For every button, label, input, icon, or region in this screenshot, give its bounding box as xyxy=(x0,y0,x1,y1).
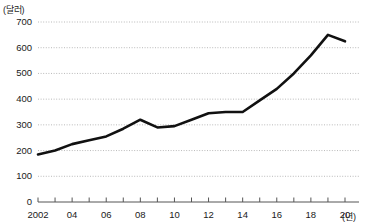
plot-area xyxy=(0,0,371,224)
line-chart: (달러) (년) 0100200300400500600700 20020406… xyxy=(0,0,371,224)
y-tick-label: 700 xyxy=(2,17,32,27)
y-tick-label: 600 xyxy=(2,43,32,53)
gridlines xyxy=(38,22,359,176)
y-tick-label: 500 xyxy=(2,68,32,78)
x-tick-label: 10 xyxy=(169,210,180,220)
x-tick-label: 04 xyxy=(67,210,78,220)
y-tick-label: 100 xyxy=(2,171,32,181)
x-tick-label: 18 xyxy=(306,210,317,220)
x-tick-label: 12 xyxy=(203,210,214,220)
y-tick-label: 300 xyxy=(2,120,32,130)
x-tick-label: 14 xyxy=(237,210,248,220)
x-tick-label: 06 xyxy=(101,210,112,220)
y-tick-label: 400 xyxy=(2,94,32,104)
x-tick-label: 08 xyxy=(135,210,146,220)
x-tick-label: 2002 xyxy=(27,210,48,220)
x-tick-label: 20 xyxy=(340,210,351,220)
x-axis-ticks xyxy=(38,198,345,203)
data-series-line xyxy=(38,35,345,155)
x-tick-label: 16 xyxy=(271,210,282,220)
y-tick-label: 200 xyxy=(2,146,32,156)
y-tick-label: 0 xyxy=(2,197,32,207)
